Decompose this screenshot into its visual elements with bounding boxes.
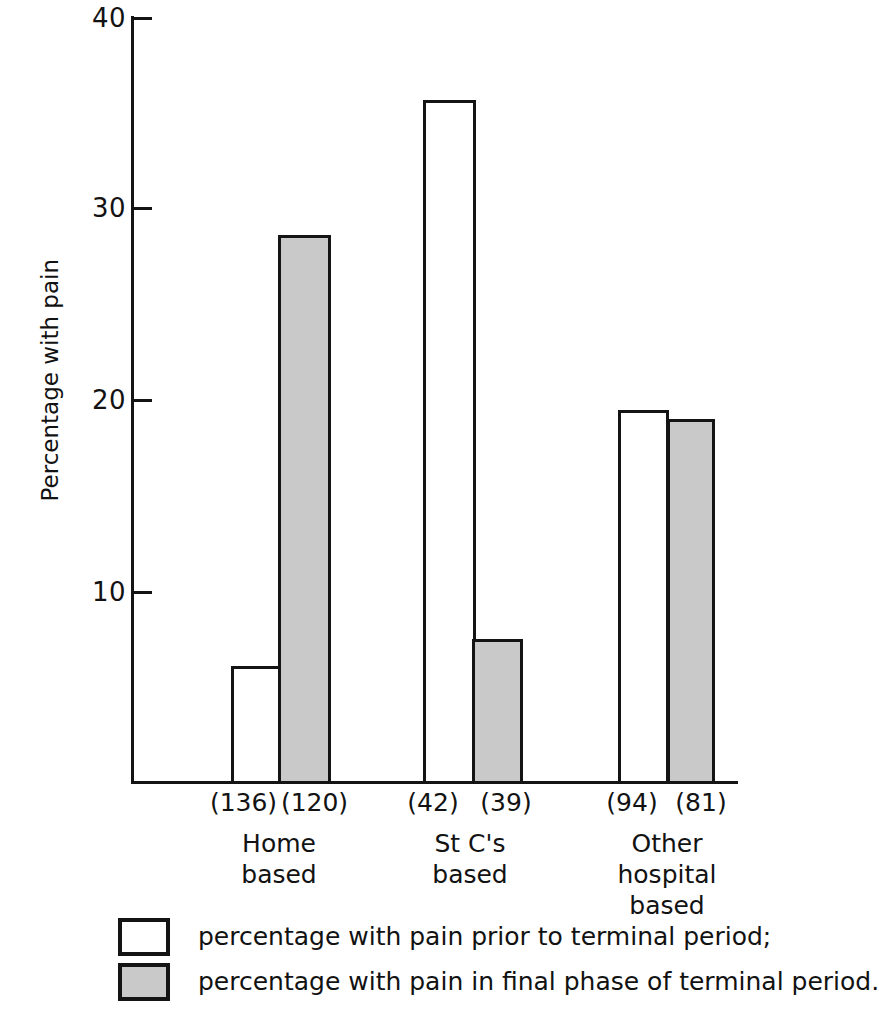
legend-swatch-white-icon — [118, 918, 170, 956]
category-label-st-cs-based-line1: St C's — [400, 828, 540, 859]
y-tick-label-20-wrap: 20 — [78, 387, 126, 413]
count-label-home-based-prior: (136) — [206, 790, 281, 815]
bar-st-cs-based-final — [472, 639, 523, 784]
legend-label-prior: percentage with pain prior to terminal p… — [198, 922, 771, 952]
bar-st-cs-based-prior — [423, 100, 476, 784]
count-label-other-hospital-based-final: (81) — [668, 790, 734, 815]
category-label-other-hospital-based-line1: Other — [597, 828, 737, 859]
category-label-home-based-line2: based — [206, 859, 352, 890]
count-label-st-cs-based-prior: (42) — [400, 790, 466, 815]
category-label-st-cs-based: St C's based — [400, 828, 540, 890]
y-tick-label-10-wrap: 10 — [78, 579, 126, 605]
y-axis-title: Percentage with pain — [39, 282, 62, 502]
category-label-home-based-line1: Home — [206, 828, 352, 859]
y-tick-30 — [134, 207, 152, 210]
count-label-home-based-final: (120) — [277, 790, 352, 815]
chart-legend: percentage with pain prior to terminal p… — [0, 908, 750, 1017]
y-tick-10 — [134, 591, 152, 594]
count-label-other-hospital-based-prior: (94) — [599, 790, 665, 815]
bar-home-based-prior — [231, 666, 281, 784]
count-label-st-cs-based-final: (39) — [473, 790, 539, 815]
category-label-home-based: Home based — [206, 828, 352, 890]
category-label-st-cs-based-line2: based — [400, 859, 540, 890]
plot-area: Percentage with pain 40 30 20 10 (136) (… — [0, 0, 750, 800]
y-tick-label-30: 30 — [86, 195, 126, 221]
bar-home-based-final — [278, 235, 331, 784]
y-tick-label-20: 20 — [86, 387, 126, 413]
bar-other-hospital-based-prior — [618, 410, 669, 784]
category-label-other-hospital-based-line2: hospital — [597, 859, 737, 890]
y-tick-label-10: 10 — [86, 579, 126, 605]
legend-label-final: percentage with pain in final phase of t… — [198, 967, 879, 997]
y-tick-40 — [134, 17, 152, 20]
legend-swatch-grey-icon — [118, 963, 170, 1001]
bar-other-hospital-based-final — [667, 419, 715, 784]
y-tick-label-40-wrap: 40 — [78, 5, 126, 31]
y-tick-20 — [134, 399, 152, 402]
y-tick-label-40: 40 — [86, 5, 126, 31]
y-tick-label-30-wrap: 30 — [78, 195, 126, 221]
